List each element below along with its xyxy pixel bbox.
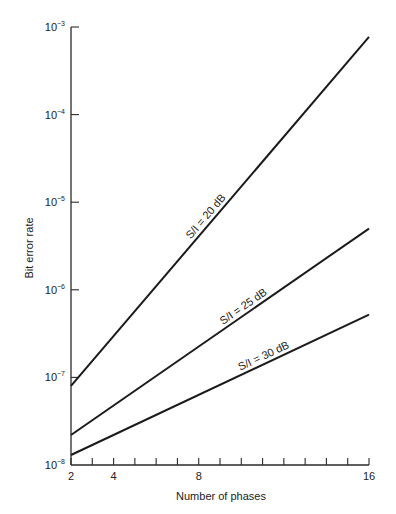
axes xyxy=(71,27,369,465)
series-line-2 xyxy=(71,229,369,435)
series-label-2: S/I = 25 dB xyxy=(217,286,269,327)
y-tick-label: 10−8 xyxy=(45,458,65,471)
y-axis-ticks: 10−310−410−510−610−710−8 xyxy=(45,20,79,471)
y-tick-label: 10−7 xyxy=(45,370,65,383)
series-line-1 xyxy=(71,37,369,386)
bit-error-rate-chart: 24816 10−310−410−510−610−710−8 S/I = 20 … xyxy=(0,0,396,514)
y-tick-label: 10−4 xyxy=(45,108,65,121)
y-tick-label: 10−6 xyxy=(45,283,65,296)
series-line-3 xyxy=(71,315,369,455)
x-tick-label: 16 xyxy=(363,470,375,482)
x-tick-label: 2 xyxy=(68,470,74,482)
y-tick-label: 10−5 xyxy=(45,195,65,208)
x-axis-ticks: 24816 xyxy=(68,458,375,482)
x-tick-label: 4 xyxy=(111,470,117,482)
y-tick-label: 10−3 xyxy=(45,20,65,33)
y-axis-title: Bit error rate xyxy=(23,217,35,278)
series-label-1: S/I = 20 dB xyxy=(183,191,228,240)
series-lines: S/I = 20 dBS/I = 25 dBS/I = 30 dB xyxy=(71,37,369,455)
x-tick-label: 8 xyxy=(196,470,202,482)
x-axis-title: Number of phases xyxy=(176,490,266,502)
